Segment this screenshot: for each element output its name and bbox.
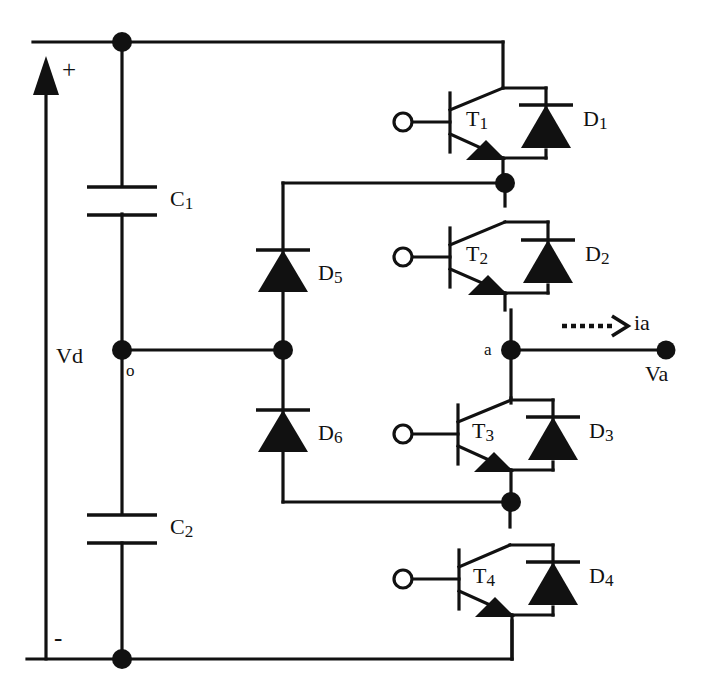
t2-label: T2 [466,243,488,267]
d4-triangle [528,562,578,605]
t4-gate-terminal-icon[interactable] [394,570,412,588]
d5-triangle [258,250,308,292]
d2-triangle [523,240,573,283]
switch-t1-d1 [394,88,573,183]
t2-gate-terminal-icon[interactable] [394,248,412,266]
ia-arrowhead [612,316,628,336]
junction-dot-t3t4 [501,492,521,512]
polarity-minus-label: - [54,625,62,650]
t1-label: T1 [466,108,488,132]
junction-dot-node-a [501,340,521,360]
vd-arrowhead-icon [33,56,59,95]
t3-label: T3 [472,420,494,444]
junction-dot-t1t2 [495,173,515,193]
d6-triangle [258,410,308,452]
d1-triangle [521,105,571,148]
t3-gate-terminal-icon[interactable] [394,425,412,443]
junction-dot-node-o [112,340,132,360]
d5-label: D5 [318,262,342,286]
node-o-label: o [126,362,135,379]
d2-label: D2 [585,243,609,267]
ia-current-arrow-icon [562,316,628,336]
node-a-label: a [484,341,492,358]
va-terminal-dot[interactable] [657,341,676,360]
capacitor-c1 [87,187,157,215]
t4-label: T4 [473,565,495,589]
diode-d5 [256,250,310,292]
d3-triangle [528,417,578,460]
va-label: Va [645,363,668,385]
c2-label: C2 [170,516,193,540]
junction-dot-toprail-c1 [112,32,132,52]
ia-label: ia [634,312,650,334]
polarity-plus-label: + [62,57,76,82]
junction-dot-bottomrail-c2 [112,649,132,669]
junction-dot-clamp-mid [273,340,293,360]
d3-label: D3 [589,420,613,444]
vd-label: Vd [56,345,83,367]
d6-label: D6 [318,422,342,446]
circuit-diagram: + - Vd C1 C2 o a Va ia D5 D6 T1 T2 T3 T4… [0,0,707,691]
t1-gate-terminal-icon[interactable] [394,113,412,131]
d1-label: D1 [583,108,607,132]
capacitor-c2 [87,515,157,543]
c1-label: C1 [170,188,193,212]
switch-t3-d3 [394,398,580,502]
diode-d6 [256,410,310,452]
d4-label: D4 [589,565,613,589]
